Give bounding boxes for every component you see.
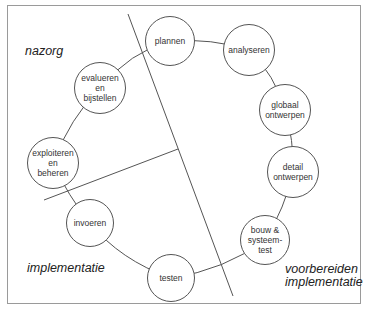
node-text: beheren [37, 168, 68, 178]
node-text: en [95, 83, 104, 93]
node-detail-ontwerpen: detail ontwerpen [267, 146, 319, 198]
phase-voorbereiden-line2: implementatie [285, 276, 363, 289]
node-testen: testen [147, 254, 195, 302]
phase-label-nazorg: nazorg [25, 45, 63, 58]
node-plannen: plannen [145, 16, 195, 66]
node-invoeren: invoeren [66, 199, 114, 247]
node-text: testen [159, 273, 182, 283]
node-text: test [258, 245, 272, 255]
phase-implementatie-text: implementatie [27, 262, 105, 275]
node-text: en [48, 158, 57, 168]
node-text: invoeren [74, 218, 107, 228]
node-text: evalueren [81, 73, 118, 83]
phase-label-voorbereiden-implementatie: voorbereiden implementatie [285, 263, 363, 289]
phase-nazorg-text: nazorg [25, 45, 63, 58]
node-text: ontwerpen [265, 110, 305, 120]
node-globaal-ontwerpen: globaal ontwerpen [259, 84, 311, 136]
node-text: detail [283, 162, 303, 172]
node-text: bouw & [251, 225, 279, 235]
node-exploiteren-en-beheren: exploiteren en beheren [27, 137, 79, 189]
node-text: analyseren [228, 45, 270, 55]
node-text: plannen [155, 36, 185, 46]
node-text: globaal [271, 100, 298, 110]
node-text: ontwerpen [273, 172, 313, 182]
node-text: bijstellen [83, 93, 116, 103]
node-evalueren-en-bijstellen: evalueren en bijstellen [74, 62, 126, 114]
node-text: systeem- [248, 235, 282, 245]
node-analyseren: analyseren [223, 24, 275, 76]
node-bouw-systeemtest: bouw & systeem- test [240, 215, 290, 265]
phase-label-implementatie: implementatie [27, 262, 105, 275]
node-text: exploiteren [32, 148, 74, 158]
